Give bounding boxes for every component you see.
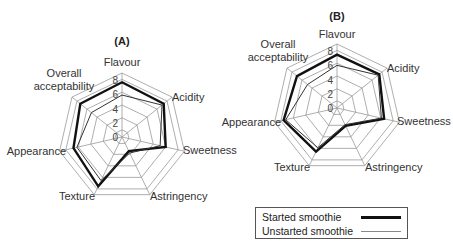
axis-label: Flavour: [319, 28, 356, 40]
tick-label: 0: [112, 132, 118, 143]
axis-label: Appearance: [222, 116, 281, 128]
axis-label: Acidity: [387, 62, 420, 74]
tick-label: 8: [327, 46, 333, 57]
tick-label: 2: [112, 118, 118, 129]
axis-label: Astringency: [150, 190, 208, 202]
series-started: [73, 82, 165, 186]
axis-label: Texture: [274, 161, 310, 173]
tick-label: 4: [112, 104, 118, 115]
legend-swatch-started: [361, 216, 401, 219]
axis-label: Sweetness: [183, 144, 237, 156]
axis-label: Flavour: [104, 56, 141, 68]
axis-label: Acidity: [172, 91, 205, 103]
legend-label-unstarted: Unstarted smoothie: [262, 225, 353, 237]
chart-title: (A): [114, 35, 130, 47]
legend-swatch-unstarted: [361, 231, 401, 232]
axis-label: Overall: [261, 38, 296, 50]
chart-title: (B): [329, 10, 345, 22]
legend-item-started: Started smoothie: [262, 210, 341, 224]
tick-label: 0: [327, 103, 333, 114]
axis-label: acceptability: [34, 80, 95, 92]
axis-label: Appearance: [7, 145, 66, 157]
legend-item-unstarted: Unstarted smoothie: [262, 224, 353, 238]
axis-label: Astringency: [365, 161, 423, 173]
tick-label: 4: [327, 75, 333, 86]
axis-label: Overall: [47, 67, 82, 79]
tick-label: 2: [327, 89, 333, 100]
legend: Started smoothie Unstarted smoothie: [255, 207, 408, 239]
axis-label: acceptability: [248, 51, 309, 63]
axis-label: Texture: [59, 190, 95, 202]
legend-label-started: Started smoothie: [262, 211, 341, 223]
axis-label: Sweetness: [397, 115, 451, 127]
